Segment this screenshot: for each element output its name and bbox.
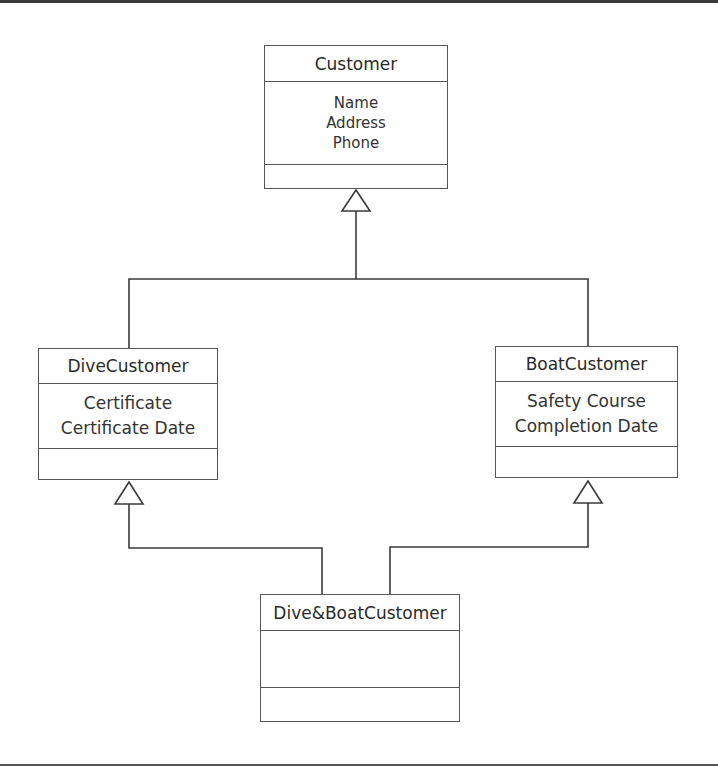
inheritance-triangle-icon: [115, 482, 143, 504]
frame-bottom-rule: [0, 764, 718, 766]
class-operations: [261, 688, 459, 721]
attribute: Certificate Date: [61, 416, 195, 441]
attribute: Phone: [333, 133, 379, 153]
class-name: DiveCustomer: [39, 349, 217, 384]
generalization-diveboat-to-dive: [115, 482, 322, 594]
class-name: Dive&BoatCustomer: [261, 595, 459, 631]
class-attributes: Certificate Certificate Date: [39, 384, 217, 449]
class-dive-customer[interactable]: DiveCustomer Certificate Certificate Dat…: [38, 348, 218, 480]
class-name: BoatCustomer: [496, 347, 677, 382]
class-boat-customer[interactable]: BoatCustomer Safety Course Completion Da…: [495, 346, 678, 478]
class-operations: [496, 447, 677, 477]
class-customer[interactable]: Customer Name Address Phone: [264, 45, 448, 189]
class-attributes: [261, 631, 459, 688]
generalization-boat-to-customer: [356, 279, 588, 346]
class-operations: [39, 449, 217, 479]
attribute: Completion Date: [515, 414, 658, 439]
inheritance-triangle-icon: [342, 190, 370, 211]
attribute: Safety Course: [527, 389, 646, 414]
frame-top-rule: [0, 0, 718, 3]
attribute: Certificate: [84, 391, 172, 416]
attribute: Address: [326, 113, 386, 133]
class-name: Customer: [265, 46, 447, 82]
class-attributes: Safety Course Completion Date: [496, 382, 677, 447]
generalization-dive-to-customer: [129, 279, 356, 348]
attribute: Name: [334, 93, 378, 113]
generalization-diveboat-to-boat: [390, 481, 602, 594]
class-dive-boat-customer[interactable]: Dive&BoatCustomer: [260, 594, 460, 722]
class-attributes: Name Address Phone: [265, 82, 447, 165]
class-operations: [265, 165, 447, 188]
inheritance-triangle-icon: [574, 481, 602, 503]
